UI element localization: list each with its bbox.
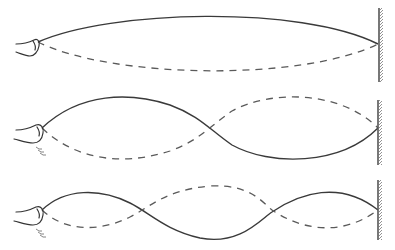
wall-icon [378, 100, 382, 165]
wall-icon [379, 8, 383, 82]
hand-icon [14, 125, 43, 143]
diagram-canvas [0, 0, 395, 250]
hand-icon [14, 207, 43, 225]
panel-second-harmonic [14, 97, 382, 165]
panel-third-harmonic [14, 180, 382, 240]
string-solid [42, 192, 378, 239]
string-dashed [42, 97, 378, 159]
string-solid [38, 16, 378, 44]
standing-wave-diagram: Standing waves on a string fixed at one … [0, 0, 395, 250]
motion-lines-icon [36, 229, 46, 237]
panel-first-harmonic [16, 8, 383, 82]
hand-icon [16, 39, 39, 56]
motion-lines-icon [36, 147, 46, 155]
string-dashed [38, 42, 378, 71]
wall-icon [378, 180, 382, 240]
